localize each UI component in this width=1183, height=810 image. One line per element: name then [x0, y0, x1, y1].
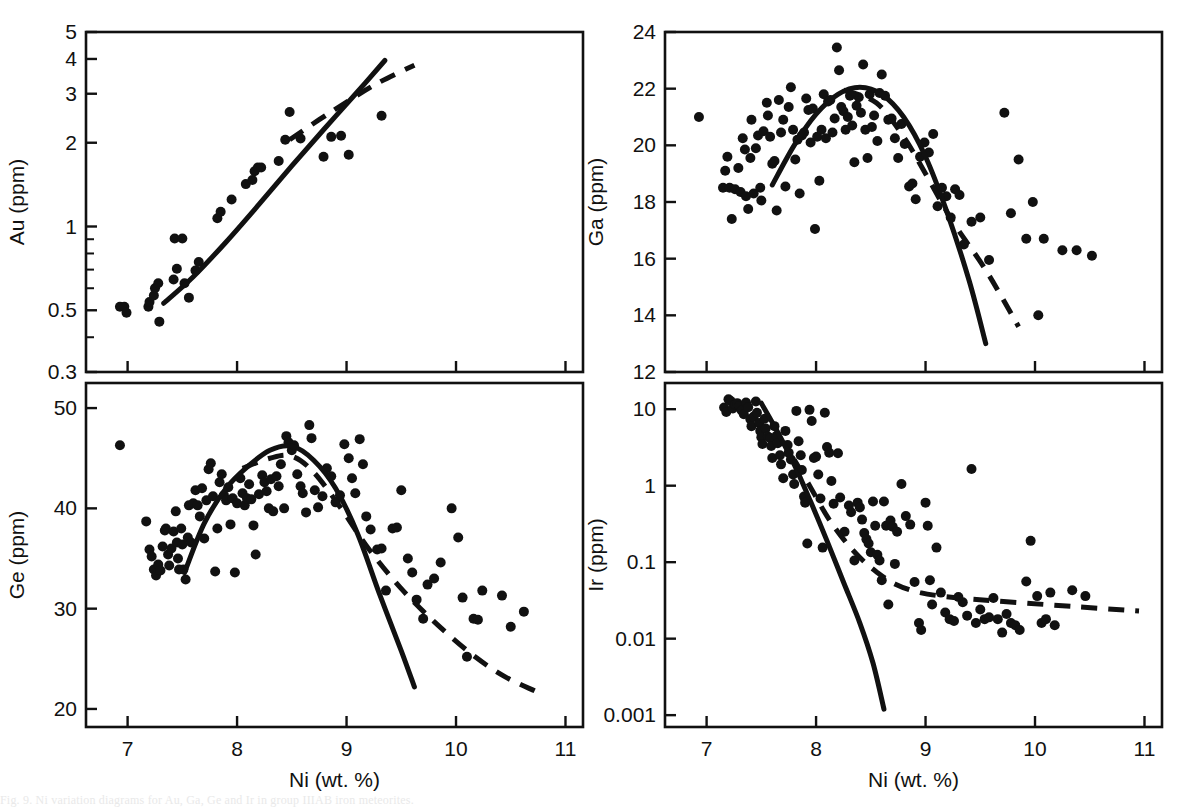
- ge-panel-frame: [86, 383, 583, 727]
- data-point: [776, 128, 786, 138]
- data-point: [755, 183, 765, 193]
- data-point: [762, 98, 772, 108]
- four-panel-scatter-figure: 0.30.512345Au (ppm)12141618202224Ga (ppm…: [0, 0, 1183, 810]
- ga-panel-ytick-label: 14: [633, 303, 657, 326]
- data-point: [339, 439, 349, 449]
- data-point: [1028, 197, 1038, 207]
- data-point: [872, 136, 882, 146]
- data-point: [746, 115, 756, 125]
- data-point: [304, 420, 314, 430]
- data-point: [262, 486, 272, 496]
- data-point: [790, 155, 800, 165]
- data-point: [1039, 234, 1049, 244]
- data-point: [931, 543, 941, 553]
- data-point: [805, 405, 815, 415]
- data-point: [447, 503, 457, 513]
- data-point: [772, 206, 782, 216]
- data-point: [890, 559, 900, 569]
- data-point: [743, 204, 753, 214]
- data-point: [1032, 591, 1042, 601]
- data-point: [358, 459, 368, 469]
- data-point: [276, 459, 286, 469]
- data-point: [298, 488, 308, 498]
- data-point: [733, 163, 743, 173]
- ge-panel-dashed-curve: [243, 455, 535, 691]
- data-point: [377, 111, 387, 121]
- data-point: [788, 125, 798, 135]
- data-point: [858, 60, 868, 70]
- ga-panel-ytick-label: 22: [633, 77, 656, 100]
- ir-panel-xtick-label: 10: [1023, 737, 1046, 760]
- ir-panel-ytick-label: 0.1: [627, 550, 656, 573]
- ir-panel-xtick-label: 8: [810, 737, 822, 760]
- data-point: [153, 278, 163, 288]
- data-point: [1057, 245, 1067, 255]
- data-point: [745, 153, 755, 163]
- data-point: [181, 575, 191, 585]
- data-point: [780, 426, 790, 436]
- data-point: [778, 115, 788, 125]
- data-point: [1014, 155, 1024, 165]
- data-point: [251, 550, 261, 560]
- ge-panel-ytick-label: 30: [54, 597, 77, 620]
- data-point: [285, 107, 295, 117]
- data-point: [925, 575, 935, 585]
- data-point: [271, 471, 281, 481]
- data-point: [833, 448, 843, 458]
- data-point: [176, 523, 186, 533]
- data-point: [473, 615, 483, 625]
- ge-panel-ytick-label: 40: [54, 496, 77, 519]
- au-panel-ytick-label: 4: [65, 47, 77, 70]
- data-point: [811, 452, 821, 462]
- ga-panel-ytick-label: 12: [633, 360, 656, 383]
- data-point: [193, 500, 203, 510]
- data-point: [377, 543, 387, 553]
- data-point: [418, 614, 428, 624]
- data-point: [172, 264, 182, 274]
- ir-panel-ytick-label: 0.01: [615, 627, 656, 650]
- data-point: [1072, 245, 1082, 255]
- data-point: [313, 502, 323, 512]
- au-panel-ytick-label: 5: [65, 20, 77, 43]
- data-point: [911, 194, 921, 204]
- au-panel-ytick-label: 0.3: [48, 360, 77, 383]
- ir-panel-xtick-label: 11: [1134, 737, 1156, 760]
- data-point: [879, 497, 889, 507]
- data-point: [971, 618, 981, 628]
- data-point: [869, 111, 879, 121]
- data-point: [846, 507, 856, 517]
- data-point: [244, 479, 254, 489]
- data-point: [350, 488, 360, 498]
- au-panel-y-axis-title: Au (ppm): [5, 159, 28, 245]
- data-point: [355, 434, 365, 444]
- data-point: [216, 207, 226, 217]
- data-point: [740, 145, 750, 155]
- data-point: [173, 554, 183, 564]
- data-point: [280, 135, 290, 145]
- data-point: [292, 469, 302, 479]
- data-point: [326, 132, 336, 142]
- data-point: [832, 43, 842, 53]
- data-point: [774, 95, 784, 105]
- data-point: [807, 416, 817, 426]
- data-point: [1015, 625, 1025, 635]
- data-point: [115, 440, 125, 450]
- data-point: [864, 539, 874, 549]
- data-point: [155, 566, 165, 576]
- data-point: [210, 567, 220, 577]
- data-point: [177, 234, 187, 244]
- ge-panel-xtick-label: 9: [341, 737, 353, 760]
- data-point: [694, 112, 704, 122]
- data-point: [212, 523, 222, 533]
- data-point: [927, 599, 937, 609]
- data-point: [169, 274, 179, 284]
- data-point: [855, 502, 865, 512]
- data-point: [361, 511, 371, 521]
- ir-panel: 0.0010.010.11107891011Ir (ppm)Ni (wt. %): [584, 383, 1162, 791]
- data-point: [1045, 588, 1055, 598]
- data-point: [867, 122, 877, 132]
- ir-panel-ytick-label: 10: [633, 397, 656, 420]
- ir-panel-y-axis-title: Ir (ppm): [584, 518, 607, 592]
- data-point: [458, 593, 468, 603]
- data-point: [795, 189, 805, 199]
